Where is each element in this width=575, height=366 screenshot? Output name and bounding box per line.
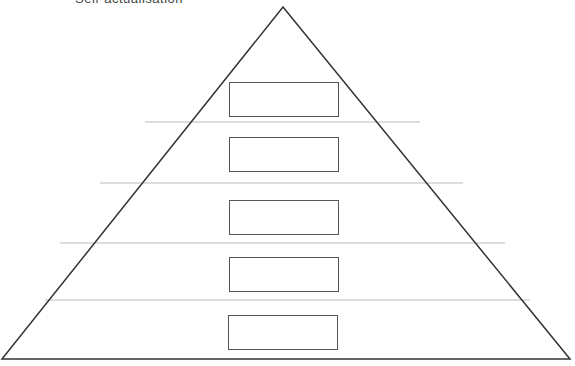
- level-2-box[interactable]: [229, 137, 339, 172]
- level-4-box[interactable]: [229, 257, 339, 292]
- pyramid-outline: [0, 0, 575, 366]
- level-3-box[interactable]: [229, 200, 339, 235]
- level-5-box[interactable]: [228, 315, 338, 350]
- level-1-box[interactable]: [229, 82, 339, 117]
